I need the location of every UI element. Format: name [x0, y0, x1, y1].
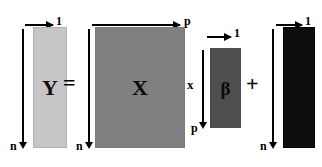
y-cols-label: 1: [56, 15, 62, 27]
matrix-equation-figure: 1 n Y = p n X x 1 p β + 1 n: [0, 0, 322, 167]
matrix-beta: β: [210, 48, 241, 128]
beta-cols-label: 1: [234, 27, 240, 39]
equals-operator: =: [63, 72, 76, 94]
matrix-y-symbol: Y: [42, 77, 58, 99]
error-width-arrow: [276, 24, 302, 26]
x-rows-label: n: [76, 140, 83, 152]
beta-width-arrow: [207, 36, 231, 38]
times-operator: x: [187, 78, 194, 91]
x-width-arrow: [92, 24, 180, 26]
matrix-y: Y: [33, 27, 67, 148]
x-height-arrow: [88, 29, 90, 144]
error-rows-label: n: [260, 140, 267, 152]
matrix-x-symbol: X: [132, 77, 148, 99]
error-height-arrow: [272, 29, 274, 144]
x-cols-label: p: [184, 15, 191, 27]
error-cols-label: 1: [305, 15, 311, 27]
matrix-error: [283, 27, 315, 148]
y-width-arrow: [25, 24, 53, 26]
plus-operator: +: [246, 73, 259, 95]
beta-rows-label: p: [191, 122, 198, 134]
y-height-arrow: [22, 29, 24, 144]
y-rows-label: n: [10, 140, 17, 152]
matrix-x: X: [95, 27, 185, 148]
matrix-beta-symbol: β: [220, 79, 230, 98]
beta-height-arrow: [202, 50, 204, 124]
